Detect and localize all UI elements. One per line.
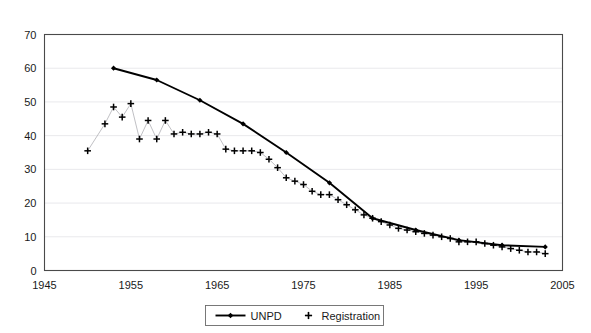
y-tick-label: 60 [24, 62, 36, 74]
data-point-registration [352, 207, 359, 214]
gridlines [45, 68, 563, 237]
data-point-registration [533, 249, 540, 256]
data-point-registration [197, 131, 204, 138]
data-point-registration [240, 148, 247, 155]
chart-container: 010203040506070 194519551965197519851995… [0, 0, 591, 333]
data-point-registration [335, 196, 342, 203]
data-point-registration [145, 117, 152, 124]
y-axis-tick-labels: 010203040506070 [24, 29, 36, 277]
x-tick-label: 1985 [378, 279, 402, 291]
data-point-registration [542, 250, 549, 257]
data-point-registration [214, 131, 221, 138]
legend-label-unpd: UNPD [251, 310, 282, 322]
data-point-registration [171, 131, 178, 138]
data-point-registration [128, 100, 135, 107]
data-point-registration [292, 178, 299, 185]
x-tick-label: 1975 [291, 279, 315, 291]
y-tick-label: 40 [24, 130, 36, 142]
data-point-registration [343, 201, 350, 208]
data-point-registration [162, 117, 169, 124]
x-axis-tick-labels: 1945195519651975198519952005 [32, 279, 574, 291]
y-tick-label: 70 [24, 29, 36, 41]
data-point-registration [231, 148, 238, 155]
data-point-unpd [543, 244, 548, 249]
series-unpd-line [114, 68, 546, 247]
data-point-registration [248, 148, 255, 155]
x-tick-label: 2005 [550, 279, 574, 291]
data-point-registration [153, 136, 160, 143]
data-point-registration [317, 191, 324, 198]
data-point-unpd [111, 66, 116, 71]
data-point-registration [179, 129, 186, 136]
x-tick-label: 1995 [464, 279, 488, 291]
y-tick-label: 50 [24, 96, 36, 108]
y-tick-label: 0 [30, 265, 36, 277]
x-tick-label: 1955 [119, 279, 143, 291]
series-registration-markers [84, 100, 548, 257]
data-point-registration [516, 247, 523, 254]
data-point-registration [205, 129, 212, 136]
y-tick-label: 20 [24, 197, 36, 209]
legend-label-registration: Registration [322, 310, 381, 322]
chart-legend: UNPDRegistration [206, 306, 384, 326]
data-point-registration [102, 121, 109, 128]
y-tick-label: 10 [24, 231, 36, 243]
data-point-registration [188, 131, 195, 138]
data-point-registration [84, 148, 91, 155]
data-point-registration [326, 191, 333, 198]
series-registration-connector [88, 104, 546, 254]
data-point-registration [525, 249, 532, 256]
series-unpd-markers [111, 66, 548, 250]
line-chart: 010203040506070 194519551965197519851995… [0, 0, 591, 333]
data-point-registration [223, 146, 230, 153]
x-tick-label: 1945 [32, 279, 56, 291]
data-point-registration [136, 136, 143, 143]
x-tick-label: 1965 [205, 279, 229, 291]
y-tick-label: 30 [24, 163, 36, 175]
